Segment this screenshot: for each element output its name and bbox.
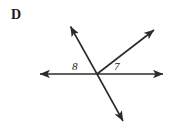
geometry-figure-panel: D 8 7 [0,0,180,133]
angle-label-8: 8 [72,61,78,72]
ray-lower-right [97,74,123,121]
angle-diagram [0,0,180,133]
part-letter: D [11,8,21,22]
ray-upper-right [97,30,154,74]
angle-label-7: 7 [114,61,120,72]
